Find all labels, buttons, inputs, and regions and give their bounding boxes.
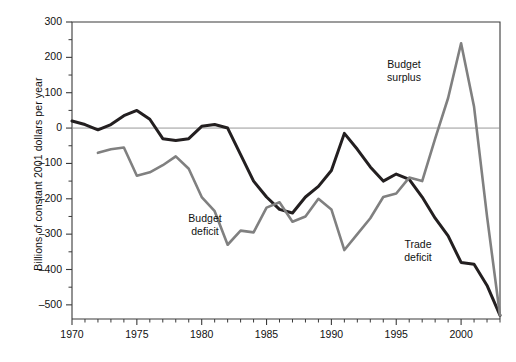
x-tick-label: 1990 xyxy=(305,328,357,340)
y-tick-label: 100 xyxy=(14,86,62,98)
y-tick-label: –300 xyxy=(14,227,62,239)
y-tick-label: –100 xyxy=(14,156,62,168)
trade-deficit-label: Tradedeficit xyxy=(382,238,454,263)
budget-deficit-label-line1: Budget xyxy=(169,212,241,225)
plot-canvas xyxy=(0,0,516,362)
budget-deficit-label-line2: deficit xyxy=(169,225,241,238)
y-tick-label: 0 xyxy=(14,121,62,133)
x-tick-label: 1975 xyxy=(111,328,163,340)
y-tick-label: –200 xyxy=(14,192,62,204)
x-tick-label: 1970 xyxy=(46,328,98,340)
x-tick-label: 2000 xyxy=(435,328,487,340)
budget-surplus-label-line2: surplus xyxy=(368,71,440,84)
x-tick-label: 1980 xyxy=(176,328,228,340)
x-tick-label: 1985 xyxy=(241,328,293,340)
y-tick-label: 300 xyxy=(14,15,62,27)
trade-deficit-label-line1: Trade xyxy=(382,238,454,251)
x-tick-label: 1995 xyxy=(370,328,422,340)
budget-deficit-label: Budgetdeficit xyxy=(169,212,241,237)
chart-figure: Billions of constant 2001 dollars per ye… xyxy=(0,0,516,362)
budget-surplus-label: Budgetsurplus xyxy=(368,58,440,83)
y-tick-label: –400 xyxy=(14,263,62,275)
budget-surplus-label-line1: Budget xyxy=(368,58,440,71)
series-line-budget-deficit xyxy=(98,43,500,315)
y-tick-label: 200 xyxy=(14,50,62,62)
trade-deficit-label-line2: deficit xyxy=(382,251,454,264)
y-tick-label: –500 xyxy=(14,298,62,310)
